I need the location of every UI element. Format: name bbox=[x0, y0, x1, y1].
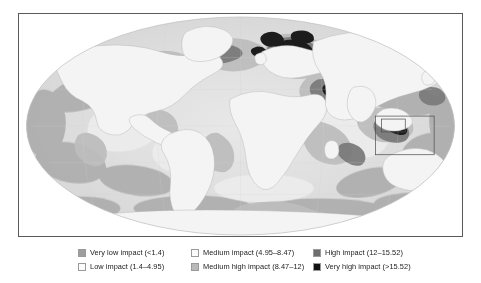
figure-container: Very low impact (<1.4) Medium impact (4.… bbox=[0, 0, 481, 283]
legend-label-very-low-impact: Very low impact (<1.4) bbox=[90, 248, 164, 257]
legend-item-medium-impact[interactable]: Medium impact (4.95–8.47) bbox=[191, 248, 313, 257]
legend-label-high-impact: High impact (12–15.52) bbox=[325, 248, 403, 257]
legend-item-medium-high-impact[interactable]: Medium high impact (8.47–12) bbox=[191, 262, 313, 271]
legend-swatch-medium-high-impact bbox=[191, 263, 199, 271]
legend-item-low-impact[interactable]: Low impact (1.4–4.95) bbox=[78, 262, 191, 271]
map-panel bbox=[18, 13, 463, 237]
legend-label-very-high-impact: Very high impact (>15.52) bbox=[325, 262, 411, 271]
legend-item-very-low-impact[interactable]: Very low impact (<1.4) bbox=[78, 248, 191, 257]
legend-swatch-very-high-impact bbox=[313, 263, 321, 271]
legend-row-top: Very low impact (<1.4) Medium impact (4.… bbox=[78, 246, 414, 259]
impact-class-legend: Very low impact (<1.4) Medium impact (4.… bbox=[78, 246, 414, 274]
legend-item-high-impact[interactable]: High impact (12–15.52) bbox=[313, 248, 414, 257]
legend-swatch-medium-impact bbox=[191, 249, 199, 257]
legend-swatch-high-impact bbox=[313, 249, 321, 257]
world-impact-map bbox=[19, 14, 462, 236]
legend-label-low-impact: Low impact (1.4–4.95) bbox=[90, 262, 164, 271]
legend-swatch-very-low-impact bbox=[78, 249, 86, 257]
ocean-impact-layer bbox=[19, 14, 462, 236]
legend-row-bottom: Low impact (1.4–4.95) Medium high impact… bbox=[78, 260, 414, 273]
legend-label-medium-high-impact: Medium high impact (8.47–12) bbox=[203, 262, 304, 271]
legend-label-medium-impact: Medium impact (4.95–8.47) bbox=[203, 248, 294, 257]
legend-item-very-high-impact[interactable]: Very high impact (>15.52) bbox=[313, 262, 414, 271]
legend-swatch-low-impact bbox=[78, 263, 86, 271]
